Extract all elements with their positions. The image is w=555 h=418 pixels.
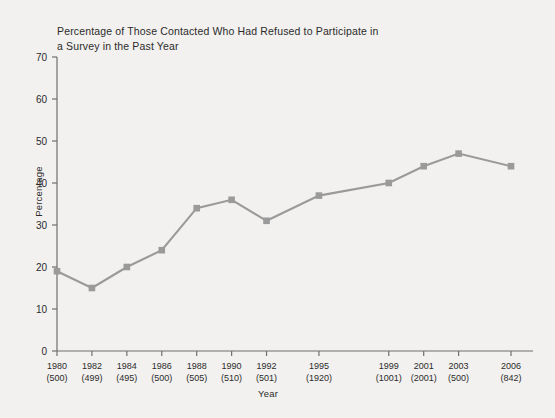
data-point-marker — [316, 192, 323, 199]
x-tick-label-sample-size: (842) — [500, 373, 521, 383]
x-tick-label-year: 2006 — [501, 361, 521, 371]
x-tick-label-year: 1999 — [379, 361, 399, 371]
x-axis: 1980(500)1982(499)1984(495)1986(500)1988… — [46, 351, 533, 383]
y-tick-label: 20 — [36, 262, 48, 273]
x-tick-label-year: 1986 — [152, 361, 172, 371]
x-tick-label-year: 2003 — [449, 361, 469, 371]
x-tick-label-year: 1982 — [82, 361, 102, 371]
data-point-marker — [89, 285, 96, 292]
x-tick-label-sample-size: (499) — [81, 373, 102, 383]
data-point-marker — [420, 163, 427, 170]
x-tick-label-year: 1992 — [257, 361, 277, 371]
data-point-marker — [124, 264, 131, 271]
x-tick-label-year: 1988 — [187, 361, 207, 371]
x-tick-label-sample-size: (1920) — [306, 373, 332, 383]
x-tick-label-sample-size: (500) — [46, 373, 67, 383]
x-tick-label-sample-size: (500) — [448, 373, 469, 383]
x-tick-label-sample-size: (500) — [151, 373, 172, 383]
data-point-marker — [54, 268, 61, 275]
plot-area: 010203040506070 1980(500)1982(499)1984(4… — [0, 0, 555, 418]
x-tick-label-sample-size: (2001) — [411, 373, 437, 383]
chart-figure: Percentage of Those Contacted Who Had Re… — [0, 0, 555, 418]
y-tick-label: 10 — [36, 304, 48, 315]
x-tick-label-year: 1984 — [117, 361, 137, 371]
data-point-marker — [228, 197, 235, 204]
data-point-marker — [455, 150, 462, 157]
data-point-marker — [158, 247, 165, 254]
x-tick-label-year: 2001 — [414, 361, 434, 371]
x-tick-label-year: 1995 — [309, 361, 329, 371]
x-tick-label-year: 1980 — [47, 361, 67, 371]
y-tick-label: 70 — [36, 52, 48, 63]
x-tick-label-year: 1990 — [222, 361, 242, 371]
data-point-marker — [508, 163, 515, 170]
data-point-marker — [193, 205, 200, 212]
x-tick-label-sample-size: (495) — [116, 373, 137, 383]
y-tick-label: 40 — [36, 178, 48, 189]
y-axis: 010203040506070 — [36, 52, 57, 357]
y-tick-label: 50 — [36, 136, 48, 147]
x-tick-label-sample-size: (510) — [221, 373, 242, 383]
y-tick-label: 30 — [36, 220, 48, 231]
data-point-marker — [385, 180, 392, 187]
x-tick-label-sample-size: (505) — [186, 373, 207, 383]
y-tick-label: 60 — [36, 94, 48, 105]
x-tick-label-sample-size: (1001) — [376, 373, 402, 383]
y-tick-label: 0 — [41, 346, 47, 357]
data-point-marker — [263, 218, 270, 225]
data-series — [54, 150, 515, 291]
x-tick-label-sample-size: (501) — [256, 373, 277, 383]
